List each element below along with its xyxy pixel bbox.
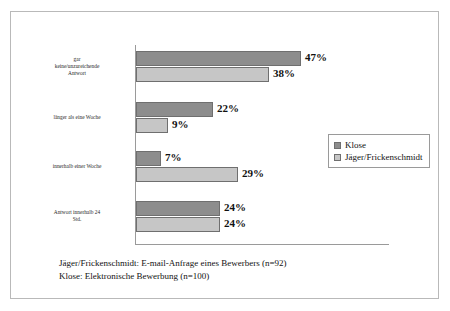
bar-row-klose-0: 47% (136, 51, 389, 66)
chart-footnote: Jäger/Frickenschmidt: E-mail-Anfrage ein… (59, 257, 389, 282)
bar-jaeger-3[interactable] (136, 217, 220, 232)
footnote-line-1: Jäger/Frickenschmidt: E-mail-Anfrage ein… (59, 257, 389, 270)
legend-label-jaeger-frickenschmidt: Jäger/Frickenschmidt (345, 152, 422, 163)
legend-item-klose[interactable]: Klose (334, 139, 422, 151)
bar-jaeger-1[interactable] (136, 118, 168, 133)
legend-swatch-klose-icon (334, 142, 341, 149)
chart-legend: Klose Jäger/Frickenschmidt (328, 134, 430, 168)
category-label-0: gar keine/unzureichende Antwort (23, 56, 131, 77)
bar-group-3: 24% 24% (136, 201, 389, 233)
bar-row-jaeger-0: 38% (136, 67, 389, 82)
bar-value-klose-1: 22% (217, 101, 239, 116)
category-label-0-line-2: Antwort (23, 70, 131, 77)
bar-klose-2[interactable] (136, 151, 161, 166)
legend-item-jaeger-frickenschmidt[interactable]: Jäger/Frickenschmidt (334, 151, 422, 163)
bar-row-jaeger-1: 9% (136, 118, 389, 133)
bar-row-jaeger-3: 24% (136, 217, 389, 232)
category-label-3-line-1: Std. (23, 216, 131, 223)
x-axis-line (135, 244, 389, 245)
bar-value-jaeger-1: 9% (172, 117, 189, 132)
bar-value-jaeger-3: 24% (224, 216, 246, 231)
legend-swatch-jaeger-frickenschmidt-icon (334, 154, 341, 161)
bar-group-0: 47% 38% (136, 51, 389, 83)
category-label-3: Antwort innerhalb 24 Std. (23, 209, 131, 223)
category-label-0-line-1: keine/unzureichende (23, 63, 131, 70)
bar-row-klose-3: 24% (136, 201, 389, 216)
bar-value-klose-2: 7% (165, 150, 182, 165)
bar-value-jaeger-0: 38% (273, 66, 295, 81)
category-label-0-line-0: gar (23, 56, 131, 63)
category-label-1: länger als eine Woche (23, 114, 131, 121)
bar-klose-3[interactable] (136, 201, 220, 216)
bar-klose-1[interactable] (136, 102, 213, 117)
category-label-3-line-0: Antwort innerhalb 24 (23, 209, 131, 216)
bar-row-jaeger-2: 29% (136, 167, 389, 182)
bar-value-jaeger-2: 29% (242, 166, 264, 181)
category-label-1-line-0: länger als eine Woche (23, 114, 131, 121)
bar-group-1: 22% 9% (136, 102, 389, 134)
bar-jaeger-0[interactable] (136, 67, 269, 82)
bar-klose-0[interactable] (136, 51, 301, 66)
chart-figure: 47% 38% 22% 9% 7% (10, 11, 439, 299)
bar-jaeger-2[interactable] (136, 167, 238, 182)
legend-label-klose: Klose (345, 140, 366, 151)
bar-value-klose-3: 24% (224, 200, 246, 215)
category-label-2-line-0: innerhalb einer Woche (23, 163, 131, 170)
footnote-line-2: Klose: Elektronische Bewerbung (n=100) (59, 270, 389, 283)
category-label-2: innerhalb einer Woche (23, 163, 131, 170)
bar-row-klose-1: 22% (136, 102, 389, 117)
bar-value-klose-0: 47% (305, 50, 327, 65)
